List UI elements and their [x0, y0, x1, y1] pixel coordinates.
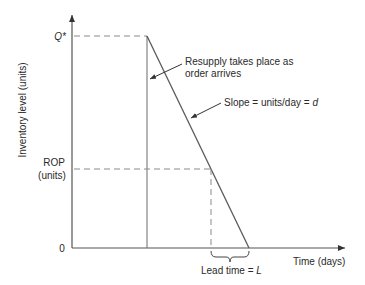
zero-label: 0: [59, 243, 65, 254]
lead-time-annotation: Lead time = L: [201, 265, 262, 276]
resupply-annotation-line2: order arrives: [185, 68, 241, 79]
rop-label-line2: (units): [38, 170, 66, 181]
slope-annotation-text: Slope = units/day =: [224, 97, 312, 108]
q-star-label: Q*: [54, 31, 67, 42]
resupply-annotation-line1: Resupply takes place as: [185, 56, 293, 67]
slope-arrow: [191, 103, 221, 118]
slope-variable: d: [312, 97, 318, 108]
y-axis-label: Inventory level (units): [17, 62, 28, 157]
lead-time-brace: [211, 251, 249, 262]
lead-time-text: Lead time =: [201, 265, 256, 276]
x-axis-label: Time (days): [293, 256, 345, 267]
lead-time-variable: L: [256, 265, 262, 276]
inventory-diagram: Q* ROP (units) 0 Inventory level (units)…: [0, 0, 365, 285]
slope-annotation: Slope = units/day = d: [224, 97, 318, 108]
rop-label-line1: ROP: [43, 157, 65, 168]
